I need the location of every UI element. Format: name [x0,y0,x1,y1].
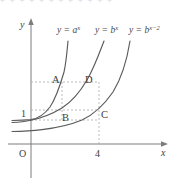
point-label-group: A B C D [52,74,108,123]
x-axis-arrow [161,141,168,146]
point-B-label: B [62,112,69,123]
point-C-label: C [101,109,108,120]
curves-group [12,41,130,132]
origin-label: O [19,148,26,159]
curve-b-shift-label-prefix: y = b [128,25,149,35]
curve-a-label-exponent: x [76,24,80,31]
curve-a-label: y = ax [56,24,80,35]
axes-group [8,18,168,178]
point-A-label: A [52,74,60,85]
x-axis-label: x [160,147,166,158]
curve-b-shift-label: y = bx−2 [128,24,161,35]
y-axis-arrow [28,18,33,25]
y-tick-1-label: 1 [21,108,26,119]
curve-label-group: y = ax y = bx y = bx−2 [56,24,161,35]
curve-b-x-minus-2 [12,41,130,132]
curve-b-shift-label-exponent: x−2 [148,24,160,31]
axis-label-group: y x O 4 1 [19,19,166,159]
figure-canvas: + + + + + + + + + + + + [0,0,182,188]
x-tick-4-label: 4 [95,148,100,159]
curve-b-label-exponent: x [114,24,118,31]
point-D-label: D [85,74,93,85]
exponential-graph: y = ax y = bx y = bx−2 A B C D y x O 4 1 [0,0,182,188]
curve-b-label-prefix: y = b [94,25,115,35]
curve-b-label: y = bx [94,24,118,35]
curve-a-label-prefix: y = a [56,25,77,35]
y-axis-label: y [19,19,25,30]
